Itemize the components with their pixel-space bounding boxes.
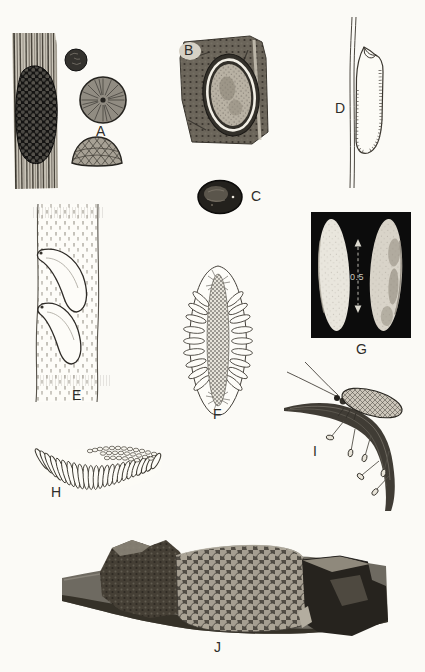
stem-attached-egg-illustration [350, 17, 383, 188]
figure-a-label: A [96, 124, 106, 138]
figure-g-label: G [356, 342, 367, 356]
print-showthrough-artifact [33, 207, 105, 218]
plate-illustrations [0, 0, 425, 672]
twig-inserted-eggs-illustration [36, 204, 99, 402]
bark-egg-mass-illustration [12, 32, 132, 190]
print-showthrough-artifact [40, 375, 110, 386]
figure-f-label: F [213, 407, 222, 421]
figure-i-label: I [313, 444, 317, 458]
figure-j-label: J [214, 640, 222, 654]
twig-egg-band-photo [62, 540, 388, 636]
scale-bar-value: 0.5 [350, 273, 364, 282]
figure-d-label: D [335, 101, 346, 115]
figure-c-label: C [251, 189, 262, 203]
lacewing-stalked-eggs-illustration [284, 362, 408, 511]
dark-oval-egg-illustration [198, 181, 242, 214]
figure-h-label: H [51, 485, 62, 499]
elongate-egg-mass-illustration [183, 266, 253, 415]
figure-plate: A B C D E F G H I J 0.5 [0, 0, 425, 672]
figure-b-label: B [184, 43, 194, 57]
figure-e-label: E [72, 388, 82, 402]
